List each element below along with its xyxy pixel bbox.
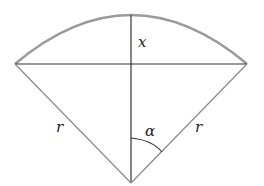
radius-left xyxy=(15,64,131,183)
label-x: x xyxy=(138,33,147,51)
label-alpha: α xyxy=(145,122,155,140)
label-r-right: r xyxy=(195,118,203,136)
segment-diagram: x r r α xyxy=(0,0,264,186)
angle-arc xyxy=(131,138,162,152)
label-r-left: r xyxy=(56,118,64,136)
